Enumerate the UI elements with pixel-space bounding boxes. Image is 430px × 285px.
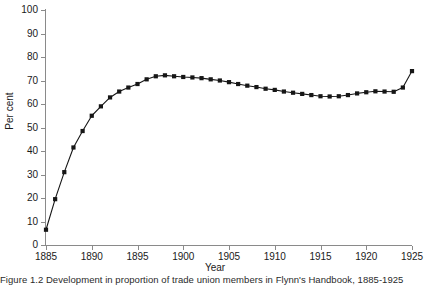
- data-point: [291, 91, 295, 95]
- data-point: [392, 90, 396, 94]
- data-point: [62, 170, 66, 174]
- data-point: [135, 82, 139, 86]
- data-point: [117, 89, 121, 93]
- data-point: [71, 145, 75, 149]
- figure-caption: Figure 1.2 Development in proportion of …: [0, 274, 430, 285]
- data-point: [154, 74, 158, 78]
- data-point: [282, 89, 286, 93]
- data-point: [254, 85, 258, 89]
- data-point: [300, 92, 304, 96]
- data-point: [273, 88, 277, 92]
- data-point: [346, 93, 350, 97]
- data-point: [328, 94, 332, 98]
- data-point: [382, 89, 386, 93]
- data-point: [245, 84, 249, 88]
- data-point: [218, 78, 222, 82]
- data-point: [44, 228, 48, 232]
- data-point: [108, 95, 112, 99]
- data-point: [264, 87, 268, 91]
- data-point: [126, 85, 130, 89]
- data-point: [337, 94, 341, 98]
- data-point: [209, 77, 213, 81]
- data-point: [199, 76, 203, 80]
- data-point: [309, 93, 313, 97]
- data-point: [190, 75, 194, 79]
- data-point: [410, 69, 414, 73]
- data-point: [81, 129, 85, 133]
- data-point: [355, 91, 359, 95]
- data-point: [99, 104, 103, 108]
- data-point: [90, 114, 94, 118]
- data-point: [53, 197, 57, 201]
- data-point: [181, 75, 185, 79]
- data-point: [145, 77, 149, 81]
- series-markers: [44, 69, 414, 232]
- data-point: [364, 90, 368, 94]
- data-point: [401, 85, 405, 89]
- data-point: [318, 94, 322, 98]
- data-point: [227, 80, 231, 84]
- data-point: [163, 73, 167, 77]
- data-point: [172, 74, 176, 78]
- data-point: [236, 82, 240, 86]
- data-point: [373, 89, 377, 93]
